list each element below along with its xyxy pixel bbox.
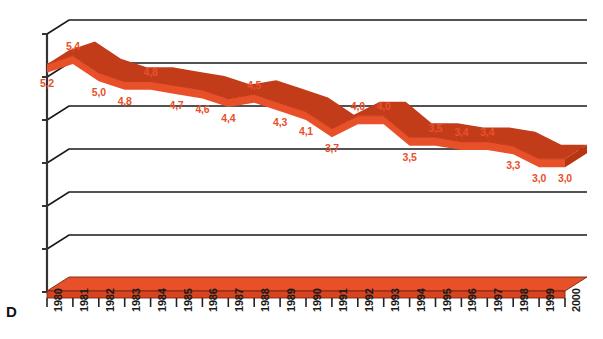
data-label-1985: 4,7: [170, 99, 184, 111]
data-label-1984: 4,8: [144, 66, 158, 78]
data-label-1983: 4,8: [118, 95, 132, 107]
data-label-1989: 4,3: [273, 116, 287, 128]
data-label-1995: 3,5: [429, 122, 443, 134]
data-label-1991: 3,7: [325, 142, 339, 154]
data-label-1982: 5,0: [92, 86, 106, 98]
data-value-labels: 5,25,45,04,84,84,74,64,44,54,34,13,74,04…: [0, 0, 603, 339]
data-label-1999: 3,0: [532, 172, 546, 184]
data-label-1992: 4,0: [351, 100, 365, 112]
corner-label: D: [6, 303, 17, 320]
data-label-1988: 4,5: [247, 79, 261, 91]
chart-container: 01,02,03,04,05,06,0 19801981198219831984…: [0, 0, 603, 339]
data-label-1980: 5,2: [40, 77, 54, 89]
data-label-1996: 3,4: [454, 126, 468, 138]
data-label-1986: 4,6: [195, 103, 209, 115]
data-label-1994: 3,5: [403, 151, 417, 163]
data-label-1997: 3,4: [480, 126, 494, 138]
data-label-1998: 3,3: [506, 159, 520, 171]
data-label-1987: 4,4: [221, 112, 235, 124]
data-label-1981: 5,4: [66, 40, 80, 52]
data-label-1993: 4,0: [377, 100, 391, 112]
data-label-2000: 3,0: [558, 172, 572, 184]
data-label-1990: 4,1: [299, 125, 313, 137]
